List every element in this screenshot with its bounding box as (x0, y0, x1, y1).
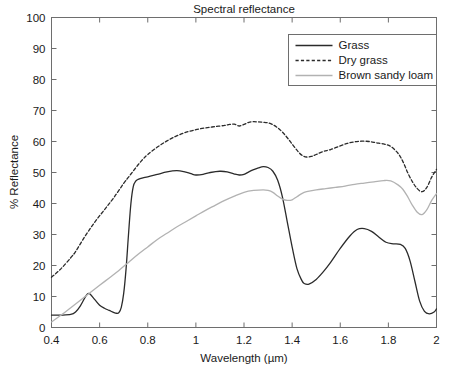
y-tick-label: 40 (33, 198, 46, 210)
x-tick-label: 0.8 (140, 334, 156, 346)
y-tick-label: 50 (33, 167, 46, 179)
spectral-reflectance-chart: Spectral reflectance 0102030405060708090… (0, 0, 456, 370)
series-line-brown-sandy-loam (52, 180, 437, 322)
chart-title: Spectral reflectance (193, 3, 295, 15)
y-tick-label: 30 (33, 229, 46, 241)
series-line-dry-grass (52, 122, 437, 278)
x-tick-label: 0.6 (92, 334, 108, 346)
y-tick-label: 20 (33, 260, 46, 272)
y-tick-label: 80 (33, 74, 46, 86)
x-tick-label: 1 (193, 334, 199, 346)
y-tick-label: 90 (33, 43, 46, 55)
legend-label: Dry grass (339, 54, 388, 66)
y-tick-label: 0 (39, 322, 45, 334)
x-axis-label: Wavelength (µm) (200, 352, 288, 364)
x-tick-label: 1.2 (236, 334, 252, 346)
figure: Spectral reflectance 0102030405060708090… (0, 0, 456, 370)
x-tick-label: 1.4 (284, 334, 301, 346)
y-tick-label: 70 (33, 105, 46, 117)
x-tick-label: 1.8 (380, 334, 396, 346)
series-line-grass (52, 167, 437, 316)
series-lines (52, 122, 437, 322)
x-tick-label: 1.6 (332, 334, 348, 346)
y-tick-label: 10 (33, 291, 46, 303)
y-tick-label: 100 (26, 12, 45, 24)
y-axis-label: % Reflectance (8, 135, 20, 209)
legend-label: Grass (339, 39, 370, 51)
chart-legend[interactable]: GrassDry grassBrown sandy loam (289, 35, 437, 86)
legend-label: Brown sandy loam (339, 69, 434, 81)
y-tick-label: 60 (33, 136, 46, 148)
x-tick-label: 2 (433, 334, 439, 346)
x-tick-label: 0.4 (44, 334, 61, 346)
